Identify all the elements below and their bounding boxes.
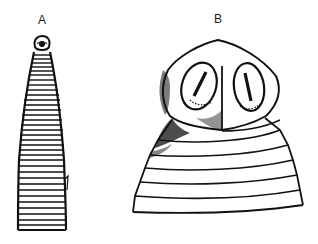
figure-a-head bbox=[35, 36, 50, 50]
figure-b-neck bbox=[133, 118, 303, 213]
figure-a bbox=[18, 36, 68, 230]
figure-a-body bbox=[18, 52, 68, 230]
figure-a-segments bbox=[18, 55, 66, 225]
figure-b bbox=[133, 40, 303, 213]
illustration bbox=[0, 0, 318, 244]
